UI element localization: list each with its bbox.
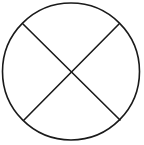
diagram-canvas bbox=[0, 0, 144, 145]
circle-with-x-diagram bbox=[0, 0, 144, 145]
